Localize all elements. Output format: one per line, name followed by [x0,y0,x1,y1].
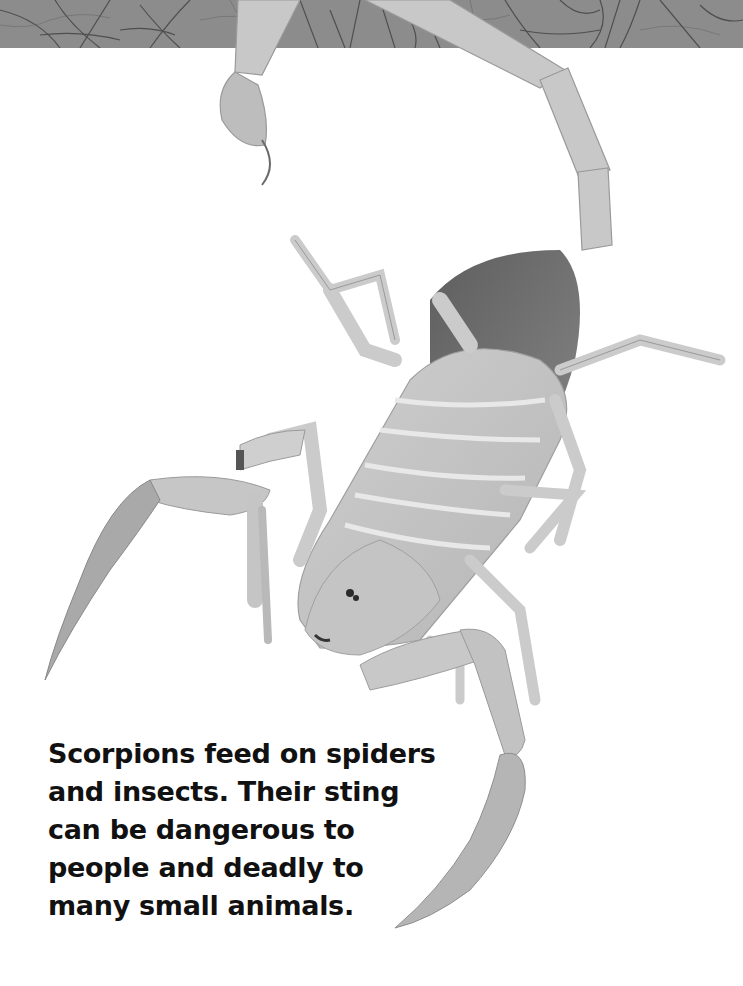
caption-line-1: Scorpions feed on spiders [48,735,428,773]
scorpion-body [298,349,567,655]
scorpion-tail [220,0,612,250]
caption-line-4: people and deadly to [48,849,428,887]
scorpion-left-claw [45,430,305,680]
caption-line-5: many small animals. [48,887,428,925]
caption-line-2: and insects. Their sting [48,773,428,811]
photo-caption: Scorpions feed on spiders and insects. T… [48,735,428,925]
caption-line-3: can be dangerous to [48,811,428,849]
